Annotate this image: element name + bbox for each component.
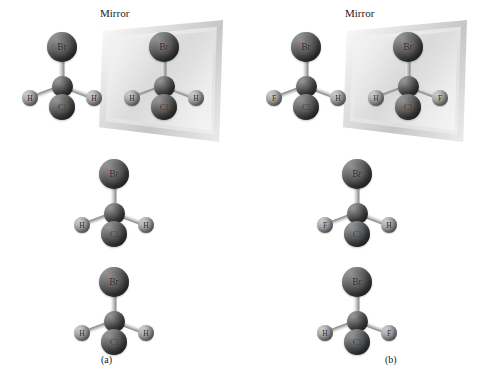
atom-top: Br xyxy=(47,32,77,62)
atom-bottom: Cl xyxy=(101,329,127,355)
atom-left: H xyxy=(74,217,90,233)
atom-bottom: Cl xyxy=(293,94,319,120)
atom-top: Br xyxy=(99,267,129,297)
non-superimposed-molecule-b: Br H Cl F xyxy=(309,263,405,355)
mirror-label-a: Mirror xyxy=(100,7,129,19)
original-molecule-a: Br H Cl H xyxy=(14,28,110,120)
atom-left: H xyxy=(22,90,38,106)
panel-caption-a: (a) xyxy=(101,354,112,365)
atom-left: H xyxy=(317,325,333,341)
rotated-molecule-b: Br F Cl H xyxy=(309,155,405,247)
atom-top: Br xyxy=(393,32,423,62)
atom-top: Br xyxy=(342,159,372,189)
atom-left: F xyxy=(317,217,333,233)
atom-top: Br xyxy=(291,32,321,62)
original-molecule-b: Br F Cl H xyxy=(258,28,354,120)
atom-top: Br xyxy=(149,32,179,62)
atom-top: Br xyxy=(99,159,129,189)
atom-bottom: Cl xyxy=(395,94,421,120)
atom-bottom: Cl xyxy=(344,329,370,355)
atom-bottom: Cl xyxy=(49,94,75,120)
atom-left: H xyxy=(368,90,384,106)
atom-right: H xyxy=(381,217,397,233)
mirror-image-molecule-a: Br H Cl H xyxy=(116,28,212,120)
mirror-label-b: Mirror xyxy=(345,7,374,19)
atom-right: H xyxy=(86,90,102,106)
atom-top: Br xyxy=(342,267,372,297)
mirror-image-molecule-b: Br H Cl F xyxy=(360,28,456,120)
atom-left: F xyxy=(266,90,282,106)
atom-right: H xyxy=(138,217,154,233)
atom-right: H xyxy=(138,325,154,341)
atom-right: F xyxy=(432,90,448,106)
atom-right: H xyxy=(330,90,346,106)
atom-bottom: Cl xyxy=(344,221,370,247)
panel-caption-b: (b) xyxy=(385,354,397,365)
atom-right: F xyxy=(381,325,397,341)
atom-right: H xyxy=(188,90,204,106)
figure-canvas: Mirror Br H Cl H Br H Cl H Br H Cl H xyxy=(0,0,490,387)
superimposed-molecule-a: Br H Cl H xyxy=(66,263,162,355)
rotated-molecule-a: Br H Cl H xyxy=(66,155,162,247)
atom-left: H xyxy=(124,90,140,106)
atom-bottom: Cl xyxy=(101,221,127,247)
atom-left: H xyxy=(74,325,90,341)
atom-bottom: Cl xyxy=(151,94,177,120)
